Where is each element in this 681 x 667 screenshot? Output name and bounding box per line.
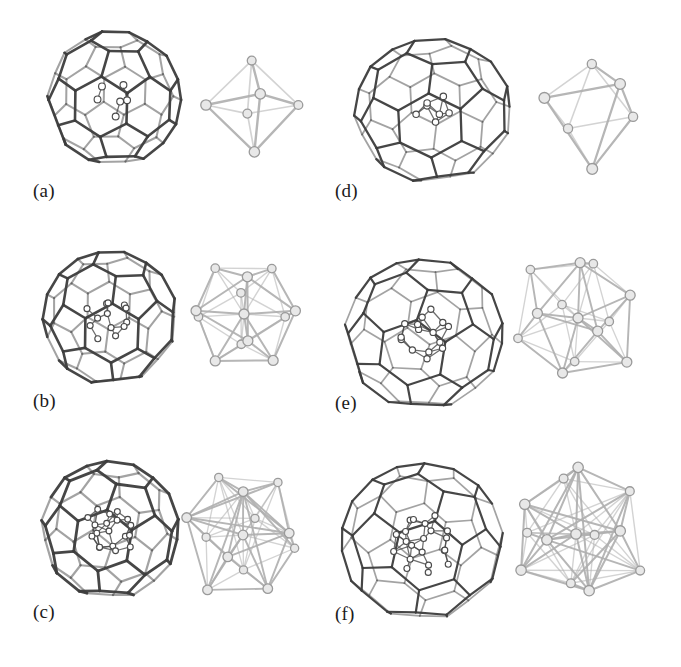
metal-cluster-c bbox=[178, 470, 308, 600]
metal-cluster-a bbox=[200, 52, 306, 158]
panel-label-b: (b) bbox=[33, 390, 56, 412]
encapsulated-atoms-f bbox=[330, 450, 514, 634]
metal-cluster-e bbox=[512, 252, 644, 384]
figure-panel-grid: (a)(b)(c)(d)(e)(f) bbox=[0, 0, 681, 667]
encapsulated-atoms-e bbox=[334, 244, 514, 424]
encapsulated-atoms-b bbox=[34, 242, 186, 394]
encapsulated-atoms-a bbox=[38, 22, 190, 174]
panel-label-e: (e) bbox=[335, 392, 357, 414]
metal-cluster-f bbox=[500, 458, 652, 610]
metal-cluster-d bbox=[532, 48, 652, 168]
panel-label-c: (c) bbox=[33, 601, 55, 623]
encapsulated-atoms-c bbox=[32, 452, 188, 608]
panel-label-a: (a) bbox=[33, 180, 55, 202]
metal-cluster-b bbox=[182, 252, 306, 376]
panel-label-d: (d) bbox=[335, 180, 358, 202]
panel-label-f: (f) bbox=[335, 603, 355, 625]
encapsulated-atoms-d bbox=[344, 22, 522, 200]
